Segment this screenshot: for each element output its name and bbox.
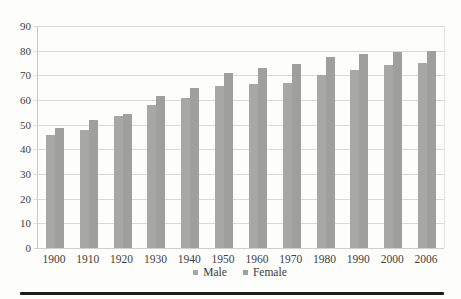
x-axis-labels: 1900191019201930194019501960197019801990…	[37, 253, 443, 265]
bar-groups	[38, 26, 444, 248]
legend-item-male: Male	[193, 266, 227, 278]
y-tick-label-30: 30	[0, 168, 31, 180]
x-tick-label-1960: 1960	[240, 253, 274, 265]
y-tick-label-70: 70	[0, 69, 31, 81]
legend-item-female: Female	[243, 266, 287, 278]
legend-label-female: Female	[253, 266, 287, 278]
life-expectancy-bar-chart: 1900191019201930194019501960197019801990…	[0, 0, 461, 299]
x-tick-label-1980: 1980	[308, 253, 342, 265]
legend-marker-female-icon	[243, 270, 248, 275]
bar-male-1920	[114, 116, 123, 248]
bar-female-1900	[55, 128, 64, 248]
bar-female-1940	[190, 88, 199, 248]
bar-group-2006	[410, 26, 444, 248]
bar-male-1990	[350, 70, 359, 248]
bar-group-1900	[38, 26, 72, 248]
legend: MaleFemale	[37, 266, 443, 278]
bar-male-1910	[80, 130, 89, 248]
y-tick-label-90: 90	[0, 20, 31, 32]
legend-marker-male-icon	[193, 270, 198, 275]
bar-female-1950	[224, 73, 233, 248]
x-tick-label-1940: 1940	[172, 253, 206, 265]
bar-female-2000	[393, 52, 402, 248]
y-tick-label-80: 80	[0, 45, 31, 57]
x-tick-label-1900: 1900	[37, 253, 71, 265]
bar-female-2006	[427, 51, 436, 248]
x-tick-label-2006: 2006	[409, 253, 443, 265]
bar-male-1940	[181, 98, 190, 248]
bar-female-1970	[292, 64, 301, 248]
bar-male-1930	[147, 105, 156, 248]
x-tick-label-1910: 1910	[71, 253, 105, 265]
bar-female-1960	[258, 68, 267, 248]
bar-group-1920	[106, 26, 140, 248]
bar-group-1960	[241, 26, 275, 248]
bar-female-1920	[123, 114, 132, 248]
y-tick-label-60: 60	[0, 94, 31, 106]
bar-female-1930	[156, 96, 165, 248]
bar-group-1970	[275, 26, 309, 248]
bar-group-1940	[173, 26, 207, 248]
y-tick-label-0: 0	[0, 242, 31, 254]
bar-male-1970	[283, 83, 292, 248]
x-tick-label-1950: 1950	[206, 253, 240, 265]
bar-female-1910	[89, 120, 98, 248]
bar-group-1910	[72, 26, 106, 248]
x-tick-label-1920: 1920	[105, 253, 139, 265]
bar-female-1980	[326, 57, 335, 248]
y-tick-label-50: 50	[0, 119, 31, 131]
bar-male-2006	[418, 63, 427, 248]
bar-group-1990	[342, 26, 376, 248]
bar-male-1980	[317, 75, 326, 248]
bar-male-1900	[46, 135, 55, 248]
gridline-0	[34, 248, 444, 249]
bar-group-1980	[309, 26, 343, 248]
page-rule	[20, 292, 444, 295]
bar-group-2000	[376, 26, 410, 248]
bar-male-2000	[384, 65, 393, 248]
x-tick-label-1970: 1970	[274, 253, 308, 265]
bar-group-1930	[139, 26, 173, 248]
y-tick-label-40: 40	[0, 143, 31, 155]
bar-male-1950	[215, 86, 224, 248]
plot-area	[37, 26, 445, 248]
x-tick-label-2000: 2000	[375, 253, 409, 265]
legend-label-male: Male	[203, 266, 227, 278]
bar-male-1960	[249, 84, 258, 248]
y-tick-label-20: 20	[0, 193, 31, 205]
y-tick-label-10: 10	[0, 217, 31, 229]
bar-female-1990	[359, 54, 368, 248]
x-tick-label-1930: 1930	[138, 253, 172, 265]
bar-group-1950	[207, 26, 241, 248]
x-tick-label-1990: 1990	[341, 253, 375, 265]
